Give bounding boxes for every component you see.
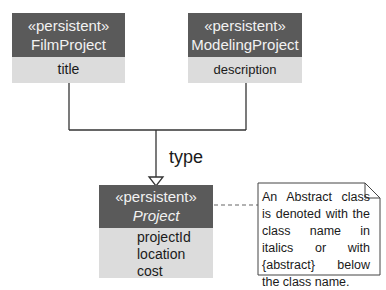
class-name: ModelingProject [188,35,302,54]
generalization-label: type [169,147,203,168]
class-modeling-project[interactable]: «persistent» ModelingProject description [188,13,302,83]
attribute: projectId [137,229,213,246]
class-attributes: projectId location cost [99,228,213,278]
attribute: description [188,61,302,78]
class-header: «persistent» ModelingProject [188,13,302,57]
attribute: title [12,61,125,78]
stereotype: «persistent» [188,16,302,35]
note-text: An Abstract class is denoted with the cl… [262,189,370,290]
attribute: location [137,246,213,263]
class-header: «persistent» FilmProject [12,13,125,57]
class-film-project[interactable]: «persistent» FilmProject title [12,13,125,83]
class-name: Project [99,206,213,225]
class-project[interactable]: «persistent» Project projectId location … [99,185,213,278]
stereotype: «persistent» [99,187,213,206]
attribute: cost [137,263,213,280]
class-attributes: title [12,57,125,83]
class-attributes: description [188,57,302,83]
class-name: FilmProject [12,35,125,54]
class-header: «persistent» Project [99,185,213,228]
stereotype: «persistent» [12,16,125,35]
